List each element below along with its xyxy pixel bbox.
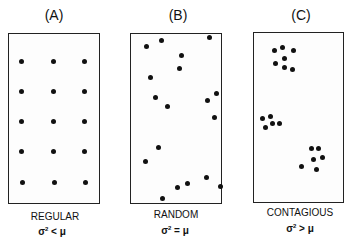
individual-dot [272, 48, 277, 53]
individual-dot [320, 155, 325, 160]
individual-dot [51, 59, 56, 64]
individual-dot [218, 184, 223, 189]
individual-dot [19, 89, 24, 94]
panel-a-label: REGULAR [5, 211, 105, 222]
panel-c-title: (C) [271, 7, 331, 23]
panel-a-title: (A) [24, 7, 84, 23]
panel-b-title: (B) [148, 7, 208, 23]
individual-dot [148, 75, 153, 80]
individual-dot [299, 164, 304, 169]
individual-dot [19, 119, 24, 124]
individual-dot [290, 67, 295, 72]
individual-dot [263, 125, 268, 130]
individual-dot [19, 59, 24, 64]
individual-dot [204, 175, 209, 180]
individual-dot [311, 157, 316, 162]
individual-dot [177, 66, 182, 71]
individual-dot [282, 56, 287, 61]
individual-dot [143, 159, 148, 164]
panel-b-formula: σ2 = μ [145, 225, 205, 236]
individual-dot [270, 121, 275, 126]
individual-dot [82, 89, 87, 94]
individual-dot [51, 119, 56, 124]
individual-dot [51, 89, 56, 94]
individual-dot [273, 61, 278, 66]
individual-dot [316, 146, 321, 151]
individual-dot [214, 91, 219, 96]
individual-dot [280, 45, 285, 50]
individual-dot [314, 167, 319, 172]
individual-dot [20, 180, 25, 185]
individual-dot [268, 114, 273, 119]
panel-b-label: RANDOM [126, 209, 226, 220]
panel-c-label: CONTAGIOUS [250, 207, 350, 218]
individual-dot [212, 115, 217, 120]
panel-c-box [253, 32, 344, 203]
individual-dot [282, 65, 287, 70]
individual-dot [19, 149, 24, 154]
individual-dot [83, 180, 88, 185]
individual-dot [185, 181, 190, 186]
panel-a-formula: σ2 < μ [22, 226, 82, 237]
individual-dot [175, 185, 180, 190]
individual-dot [160, 196, 165, 201]
individual-dot [82, 119, 87, 124]
individual-dot [52, 180, 57, 185]
individual-dot [82, 149, 87, 154]
individual-dot [165, 104, 170, 109]
individual-dot [277, 121, 282, 126]
individual-dot [156, 145, 161, 150]
individual-dot [82, 59, 87, 64]
individual-dot [291, 48, 296, 53]
individual-dot [207, 35, 212, 40]
individual-dot [159, 38, 164, 43]
individual-dot [309, 146, 314, 151]
individual-dot [260, 116, 265, 121]
individual-dot [205, 98, 210, 103]
individual-dot [144, 44, 149, 49]
panel-c-formula: σ2 > μ [270, 223, 330, 234]
individual-dot [179, 53, 184, 58]
individual-dot [51, 149, 56, 154]
individual-dot [153, 95, 158, 100]
